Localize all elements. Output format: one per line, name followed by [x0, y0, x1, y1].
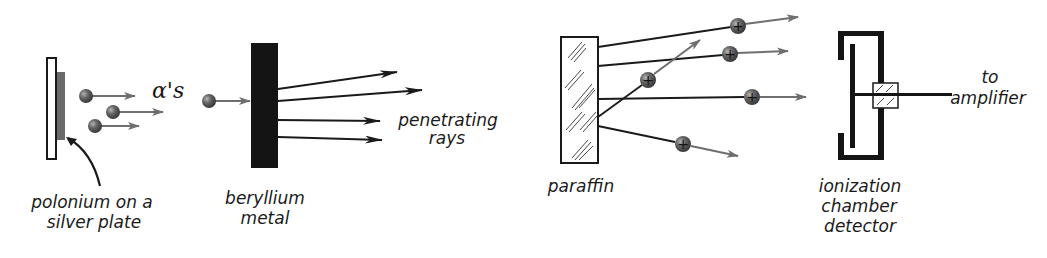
proton-plus-sign: + — [724, 46, 736, 62]
signal-wire — [852, 93, 952, 96]
alpha-particle-icon — [106, 105, 163, 119]
output-label-line2: amplifier — [950, 88, 1027, 108]
detector-label-line3: detector — [824, 216, 897, 236]
rays-label-line2: rays — [429, 128, 465, 148]
source-label-line1: polonium on a — [30, 192, 153, 212]
diagram-svg: α's + + — [0, 0, 1047, 258]
insulator — [873, 83, 898, 108]
proton-plus-sign: + — [746, 89, 758, 105]
paraffin-block — [561, 37, 598, 163]
proton-plus-sign: + — [677, 136, 689, 152]
beryllium-label-line1: beryllium — [225, 188, 305, 208]
paraffin-label: paraffin — [547, 176, 614, 196]
pointer-arrow-icon — [66, 137, 100, 186]
ray-arrow-icon — [278, 72, 397, 89]
beryllium-block — [251, 43, 278, 168]
rays-label-line1: penetrating — [397, 110, 498, 130]
proton-track: + — [598, 126, 738, 156]
diagram-canvas: α's + + — [0, 0, 1047, 258]
proton-track: + — [598, 89, 806, 105]
silver-plate — [47, 58, 56, 159]
ray-arrow-icon — [278, 90, 422, 101]
proton-track: + — [598, 40, 700, 117]
beryllium-label-line2: metal — [241, 208, 290, 228]
output-label-line1: to — [981, 67, 998, 87]
source-label-line2: silver plate — [47, 212, 141, 232]
proton-plus-sign: + — [642, 72, 654, 88]
proton-track: + — [598, 46, 788, 66]
detector-label-line1: ionization — [819, 176, 902, 196]
alpha-particle-icon — [202, 94, 250, 108]
detector-label-line2: chamber — [821, 196, 897, 216]
proton-plus-sign: + — [732, 18, 744, 34]
alpha-label: α's — [152, 78, 184, 103]
alpha-particle-icon — [79, 89, 135, 103]
polonium-layer — [57, 72, 65, 140]
ray-arrow-icon — [278, 120, 380, 121]
alpha-particle-icon — [88, 119, 139, 133]
ray-arrow-icon — [278, 137, 382, 140]
